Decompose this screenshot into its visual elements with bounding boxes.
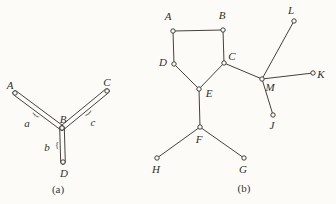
vertex-B bbox=[221, 28, 225, 32]
figure-a: {a{c{bABCD bbox=[6, 76, 112, 179]
vertex-label-B: B bbox=[219, 9, 226, 21]
vertex-J bbox=[271, 113, 275, 117]
edge-brace-a: { bbox=[30, 110, 41, 119]
vertex-D bbox=[172, 62, 176, 66]
vertex-E bbox=[197, 87, 201, 91]
vertex-label-L: L bbox=[287, 4, 294, 16]
vertex-label-C: C bbox=[228, 50, 236, 62]
vertex-label-M: M bbox=[264, 81, 275, 93]
edge-E-F bbox=[199, 89, 200, 127]
double-edge-B-D bbox=[60, 126, 66, 165]
vertex-F bbox=[198, 125, 202, 129]
vertex-label-K: K bbox=[316, 68, 325, 80]
edge-label-b: b bbox=[44, 141, 50, 153]
double-edge-A-B bbox=[13, 91, 65, 131]
vertex-label-A: A bbox=[6, 79, 14, 91]
vertex-label-G: G bbox=[239, 163, 247, 175]
vertex-label-E: E bbox=[205, 87, 213, 99]
vertex-A bbox=[13, 91, 17, 95]
edge-C-E bbox=[199, 63, 224, 89]
edge-F-G bbox=[200, 127, 244, 158]
edge-label-c: c bbox=[91, 116, 96, 128]
vertex-K bbox=[311, 71, 315, 75]
vertex-label-J: J bbox=[270, 119, 276, 131]
caption-b: (b) bbox=[226, 182, 262, 194]
vertex-label-D: D bbox=[158, 56, 167, 68]
vertex-label-H: H bbox=[151, 163, 161, 175]
edge-B-C bbox=[223, 30, 224, 63]
vertex-L bbox=[292, 19, 296, 23]
edge-M-K bbox=[262, 73, 313, 79]
vertex-label-B: B bbox=[60, 113, 67, 125]
vertex-A bbox=[171, 29, 175, 33]
edge-A-B bbox=[173, 30, 223, 31]
vertex-C bbox=[105, 89, 109, 93]
edge-D-E bbox=[174, 64, 199, 89]
vertex-H bbox=[155, 156, 159, 160]
vertex-B bbox=[60, 126, 64, 130]
vertex-M bbox=[260, 77, 264, 81]
vertex-D bbox=[61, 160, 65, 164]
vertex-label-A: A bbox=[164, 10, 172, 22]
edge-M-L bbox=[262, 21, 294, 79]
vertex-label-C: C bbox=[103, 76, 111, 88]
vertex-label-F: F bbox=[195, 133, 203, 145]
graph-figure-svg: {a{c{bABCDABCDEFGHJKLM bbox=[0, 0, 336, 204]
edge-A-D bbox=[173, 31, 174, 64]
vertex-G bbox=[242, 156, 246, 160]
figure-canvas: {a{c{bABCDABCDEFGHJKLM (a) (b) bbox=[0, 0, 336, 204]
edge-label-a: a bbox=[24, 117, 30, 129]
edge-C-M bbox=[224, 63, 262, 79]
edge-brace-b: { bbox=[55, 140, 60, 150]
edge-F-H bbox=[157, 127, 200, 158]
vertex-C bbox=[222, 61, 226, 65]
vertex-label-D: D bbox=[59, 167, 68, 179]
caption-a: (a) bbox=[40, 183, 76, 195]
double-edge-B-C bbox=[60, 89, 110, 131]
figure-b: ABCDEFGHJKLM bbox=[151, 4, 325, 175]
